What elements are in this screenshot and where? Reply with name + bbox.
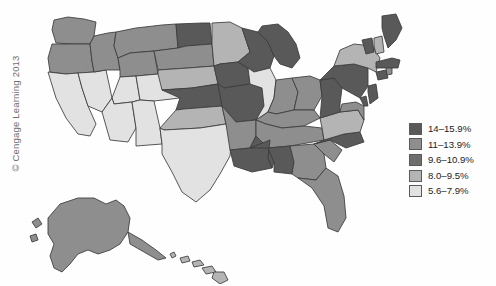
state-az [102, 98, 136, 142]
inset-hawaii [212, 272, 228, 284]
state-nj [368, 84, 378, 104]
legend-item: 8.0–9.5% [409, 168, 493, 184]
choropleth-map-figure: © Cengage Learning 2013 14–15.9%11–13.9%… [0, 0, 496, 286]
states-layer [48, 14, 402, 232]
inset-alaska [128, 232, 166, 260]
legend-swatch [409, 170, 422, 182]
legend-label: 14–15.9% [428, 124, 471, 134]
state-nh [374, 36, 384, 54]
inset-alaska [30, 234, 38, 242]
legend-item: 5.6–7.9% [409, 183, 493, 199]
state-me [382, 14, 402, 48]
legend-item: 11–13.9% [409, 137, 493, 153]
legend-item: 14–15.9% [409, 121, 493, 137]
choropleth-legend: 14–15.9%11–13.9%9.6–10.9%8.0–9.5%5.6–7.9… [409, 121, 493, 199]
copyright-credit: © Cengage Learning 2013 [10, 39, 21, 189]
legend-swatch [409, 123, 422, 135]
inset-hawaii [180, 256, 190, 263]
state-or [48, 44, 94, 74]
inset-alaska [48, 198, 130, 272]
state-ut [112, 76, 140, 104]
state-wa [52, 17, 96, 44]
legend-label: 5.6–7.9% [428, 186, 469, 196]
state-tx [160, 124, 232, 202]
legend-label: 8.0–9.5% [428, 171, 469, 181]
inset-alaska [32, 218, 42, 228]
legend-label: 9.6–10.9% [428, 155, 474, 165]
inset-layer [30, 198, 228, 284]
legend-swatch [409, 185, 422, 197]
legend-item: 9.6–10.9% [409, 152, 493, 168]
legend-swatch [409, 154, 422, 166]
map-container [24, 6, 404, 284]
legend-label: 11–13.9% [428, 140, 471, 150]
legend-swatch [409, 138, 422, 150]
inset-hawaii [170, 252, 176, 258]
inset-hawaii [192, 260, 204, 267]
state-nm [132, 100, 162, 146]
us-states-map [24, 6, 404, 284]
